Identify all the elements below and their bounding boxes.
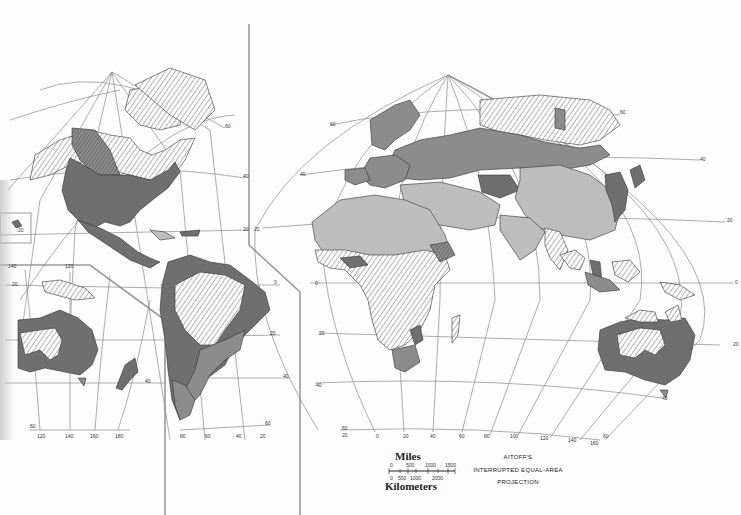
svg-text:60: 60 bbox=[330, 121, 336, 127]
world-map: 60 40 20 0 20 40 60 80 60 40 20 120 140 … bbox=[0, 0, 741, 515]
svg-text:80: 80 bbox=[180, 433, 186, 439]
svg-text:20: 20 bbox=[342, 432, 348, 438]
svg-text:140: 140 bbox=[65, 433, 74, 439]
svg-text:120: 120 bbox=[540, 435, 549, 441]
svg-text:0: 0 bbox=[376, 433, 379, 439]
svg-text:20: 20 bbox=[403, 433, 409, 439]
projection-line-2: INTERRUPTED EQUAL-AREA bbox=[458, 467, 578, 473]
scale-miles-label: Miles bbox=[395, 450, 421, 462]
australia-main bbox=[598, 305, 695, 398]
svg-text:40: 40 bbox=[300, 171, 306, 177]
svg-text:120: 120 bbox=[37, 433, 46, 439]
svg-text:160: 160 bbox=[590, 440, 599, 446]
scan-edge-shadow bbox=[0, 180, 14, 440]
svg-text:60: 60 bbox=[459, 433, 465, 439]
scale-kilometers-label: Kilometers bbox=[385, 480, 437, 492]
svg-text:20: 20 bbox=[319, 330, 325, 336]
south-america bbox=[160, 255, 270, 420]
svg-text:60: 60 bbox=[30, 423, 36, 429]
svg-text:40: 40 bbox=[700, 156, 706, 162]
svg-text:40: 40 bbox=[283, 373, 289, 379]
north-america bbox=[30, 68, 215, 268]
svg-text:60: 60 bbox=[603, 433, 609, 439]
southeast-asia bbox=[560, 250, 695, 300]
svg-text:180: 180 bbox=[115, 433, 124, 439]
svg-text:120: 120 bbox=[65, 263, 74, 269]
svg-text:40: 40 bbox=[316, 382, 322, 388]
svg-text:60: 60 bbox=[342, 425, 348, 431]
australia-inset bbox=[18, 280, 138, 390]
svg-text:20: 20 bbox=[243, 226, 249, 232]
svg-text:40: 40 bbox=[662, 395, 668, 401]
svg-text:60: 60 bbox=[620, 109, 626, 115]
svg-text:40: 40 bbox=[145, 378, 151, 384]
svg-text:40: 40 bbox=[236, 433, 242, 439]
projection-line-3: PROJECTION bbox=[458, 479, 578, 485]
scale-bar-ruler bbox=[388, 467, 458, 475]
svg-text:40: 40 bbox=[243, 173, 249, 179]
svg-text:0: 0 bbox=[274, 279, 277, 285]
svg-text:20: 20 bbox=[733, 341, 739, 347]
svg-text:160: 160 bbox=[90, 433, 99, 439]
svg-text:60: 60 bbox=[225, 123, 231, 129]
svg-text:0: 0 bbox=[735, 279, 738, 285]
svg-text:100: 100 bbox=[510, 433, 519, 439]
svg-text:20: 20 bbox=[727, 217, 733, 223]
svg-text:20: 20 bbox=[254, 226, 260, 232]
svg-text:40: 40 bbox=[430, 433, 436, 439]
svg-text:20: 20 bbox=[270, 330, 276, 336]
svg-text:20: 20 bbox=[18, 227, 24, 233]
svg-text:60: 60 bbox=[265, 420, 271, 426]
svg-text:0: 0 bbox=[315, 280, 318, 286]
svg-text:60: 60 bbox=[205, 433, 211, 439]
svg-text:140: 140 bbox=[568, 437, 577, 443]
svg-text:80: 80 bbox=[484, 433, 490, 439]
projection-line-1: AITOFF'S bbox=[458, 454, 578, 460]
svg-text:20: 20 bbox=[260, 433, 266, 439]
